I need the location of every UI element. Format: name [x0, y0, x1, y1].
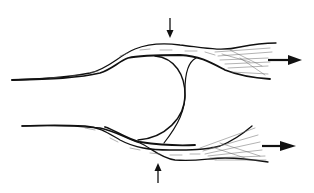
tension-arrow-upper	[268, 55, 302, 65]
upper-band	[12, 43, 276, 80]
band-diagram	[0, 0, 314, 193]
compression-arrow-top	[167, 18, 174, 38]
lower-band	[22, 125, 268, 162]
tension-arrow-lower	[262, 141, 296, 151]
central-loop	[138, 56, 196, 143]
diagram-canvas	[0, 0, 314, 193]
compression-arrow-bottom	[155, 163, 162, 183]
